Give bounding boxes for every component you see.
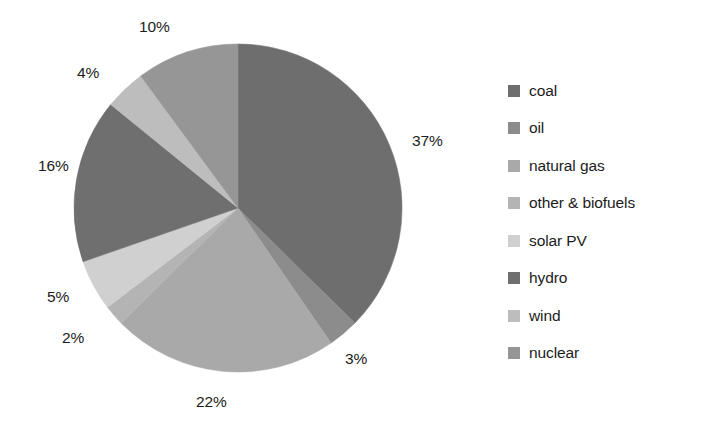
legend-swatch-icon [508, 272, 520, 284]
legend-item-natural-gas[interactable]: natural gas [508, 147, 698, 185]
legend: coaloilnatural gasother & biofuelssolar … [508, 72, 698, 372]
legend-swatch-icon [508, 160, 520, 172]
pie-svg [0, 0, 480, 441]
legend-item-solar-pv[interactable]: solar PV [508, 222, 698, 260]
legend-item-nuclear[interactable]: nuclear [508, 335, 698, 373]
pie-plot-area: 37%3%22%2%5%16%4%10% [0, 0, 480, 441]
legend-swatch-icon [508, 122, 520, 134]
pie-label-nuclear: 10% [139, 18, 170, 36]
legend-item-label: hydro [529, 269, 567, 287]
legend-swatch-icon [508, 347, 520, 359]
pie-label-natural-gas: 22% [196, 393, 227, 411]
legend-item-oil[interactable]: oil [508, 110, 698, 148]
legend-item-label: natural gas [529, 157, 605, 175]
pie-label-oil: 3% [345, 350, 367, 368]
legend-item-label: other & biofuels [529, 194, 635, 212]
legend-swatch-icon [508, 235, 520, 247]
legend-item-label: solar PV [529, 232, 587, 250]
pie-chart-figure: 37%3%22%2%5%16%4%10% coaloilnatural gaso… [0, 0, 705, 441]
legend-item-other-biofuels[interactable]: other & biofuels [508, 185, 698, 223]
legend-swatch-icon [508, 85, 520, 97]
pie-label-coal: 37% [412, 132, 443, 150]
pie-label-hydro: 16% [38, 157, 69, 175]
legend-item-label: wind [529, 307, 560, 325]
legend-item-label: coal [529, 82, 557, 100]
pie-label-other-biofuels: 2% [62, 329, 84, 347]
legend-item-label: nuclear [529, 344, 579, 362]
pie-slice-group [74, 44, 402, 372]
pie-label-solar-pv: 5% [47, 288, 69, 306]
legend-item-hydro[interactable]: hydro [508, 260, 698, 298]
legend-item-wind[interactable]: wind [508, 297, 698, 335]
legend-swatch-icon [508, 197, 520, 209]
legend-swatch-icon [508, 310, 520, 322]
legend-item-label: oil [529, 119, 544, 137]
pie-label-wind: 4% [77, 64, 99, 82]
legend-item-coal[interactable]: coal [508, 72, 698, 110]
